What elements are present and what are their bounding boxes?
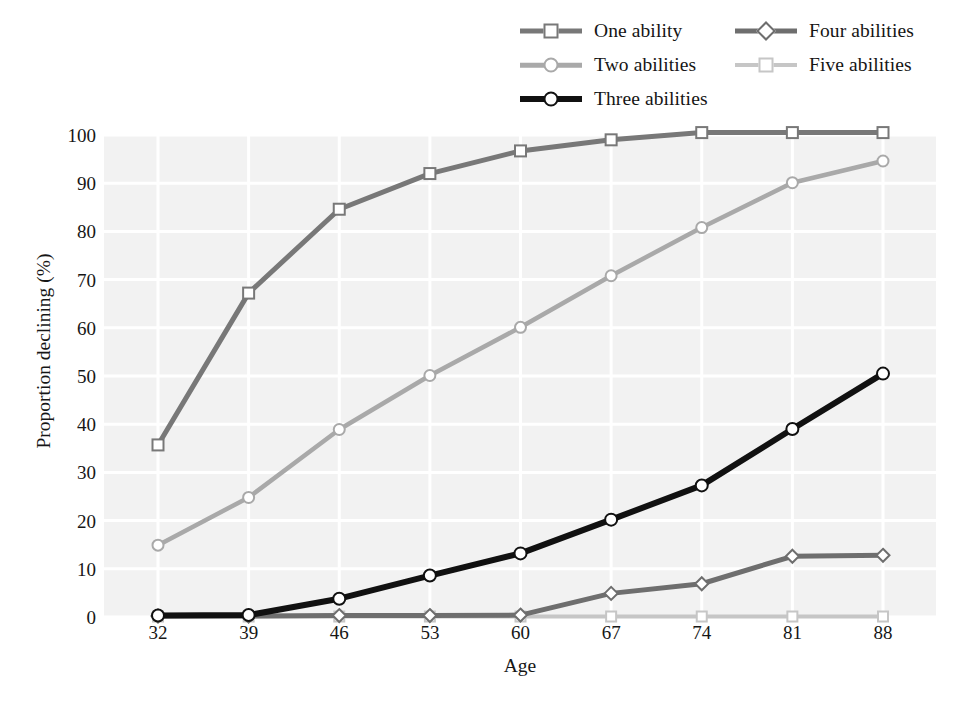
data-point-marker — [153, 439, 164, 450]
x-axis-tick-label: 74 — [672, 622, 732, 644]
data-point-marker — [424, 168, 435, 179]
x-axis-tick-label: 53 — [400, 622, 460, 644]
y-axis-tick-label: 90 — [44, 174, 96, 193]
y-axis-tick-label: 10 — [44, 559, 96, 578]
x-axis-tick-label: 67 — [581, 622, 641, 644]
data-point-marker — [334, 204, 345, 215]
data-point-marker — [515, 145, 526, 156]
x-axis-title: Age — [104, 655, 936, 677]
x-axis-tick-label: 39 — [219, 622, 279, 644]
y-axis-title: Proportion declining (%) — [33, 221, 55, 481]
x-axis-tick-label: 81 — [762, 622, 822, 644]
data-point-marker — [243, 288, 254, 299]
plot-svg — [104, 135, 936, 617]
data-point-marker — [153, 540, 164, 551]
data-point-marker — [333, 593, 345, 605]
line-chart: 1009080706050403020100 32394653606774818… — [0, 0, 969, 705]
data-point-marker — [697, 612, 707, 622]
y-axis-tick-label: 20 — [44, 511, 96, 530]
data-point-marker — [696, 222, 707, 233]
y-axis-tick-label: 100 — [44, 126, 96, 145]
data-point-marker — [424, 570, 436, 582]
data-point-marker — [787, 127, 798, 138]
x-axis-tick-label: 88 — [853, 622, 913, 644]
data-point-marker — [787, 177, 798, 188]
x-axis-tick-label: 46 — [309, 622, 369, 644]
data-point-marker — [605, 587, 618, 600]
data-point-marker — [787, 612, 797, 622]
data-point-marker — [152, 610, 164, 622]
data-point-marker — [243, 609, 255, 621]
data-point-marker — [424, 370, 435, 381]
data-point-marker — [243, 492, 254, 503]
x-axis-tick-label: 60 — [491, 622, 551, 644]
data-point-marker — [877, 549, 890, 562]
data-point-marker — [786, 550, 799, 563]
data-point-marker — [606, 612, 616, 622]
data-point-marker — [606, 134, 617, 145]
y-axis-tick-label: 0 — [44, 608, 96, 627]
data-point-marker — [878, 612, 888, 622]
data-point-marker — [515, 547, 527, 559]
data-point-marker — [605, 514, 617, 526]
data-point-marker — [515, 322, 526, 333]
data-point-marker — [878, 156, 889, 167]
data-point-marker — [696, 479, 708, 491]
data-point-marker — [878, 127, 889, 138]
data-point-marker — [877, 368, 889, 380]
x-axis-tick-labels: 323946536067748188 — [104, 622, 936, 648]
data-point-marker — [695, 577, 708, 590]
gridlines — [104, 135, 936, 617]
x-axis-tick-label: 32 — [128, 622, 188, 644]
data-point-marker — [696, 127, 707, 138]
data-point-marker — [606, 270, 617, 281]
data-point-marker — [786, 423, 798, 435]
plot-area — [104, 135, 936, 617]
data-point-marker — [334, 424, 345, 435]
